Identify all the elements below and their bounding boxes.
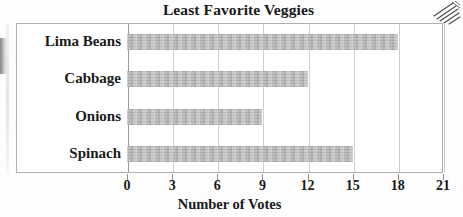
x-axis-title: Number of Votes — [16, 196, 443, 213]
bar-lima-beans — [127, 34, 398, 50]
x-tick-label-0: 0 — [112, 178, 142, 194]
x-tick-label-3: 3 — [157, 178, 187, 194]
bar-onions — [127, 109, 262, 125]
bar-row: Spinach — [0, 136, 463, 174]
scanned-page: Least Favorite Veggies Number of Votes 0… — [0, 0, 463, 217]
bar-spinach — [127, 146, 353, 162]
category-label-spinach: Spinach — [0, 145, 121, 162]
category-label-cabbage: Cabbage — [0, 70, 121, 87]
bar-cabbage — [127, 71, 308, 87]
x-tick-label-18: 18 — [383, 178, 413, 194]
x-tick-label-6: 6 — [202, 178, 232, 194]
bar-row: Onions — [0, 98, 463, 136]
category-label-onions: Onions — [0, 108, 121, 125]
x-tick-label-15: 15 — [338, 178, 368, 194]
bar-row: Lima Beans — [0, 23, 463, 61]
category-label-lima-beans: Lima Beans — [0, 33, 121, 50]
chart-title: Least Favorite Veggies — [0, 1, 463, 19]
x-tick-label-9: 9 — [247, 178, 277, 194]
bar-row: Cabbage — [0, 61, 463, 99]
x-tick-label-21: 21 — [428, 178, 458, 194]
x-tick-label-12: 12 — [293, 178, 323, 194]
